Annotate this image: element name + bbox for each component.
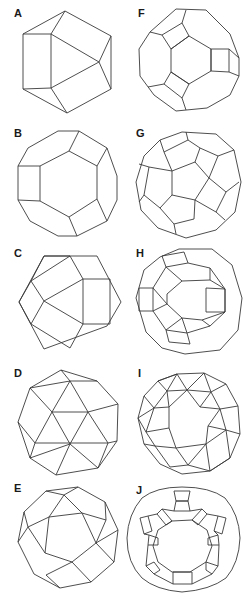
panel-j: J	[122, 480, 244, 600]
panel-e: E	[0, 480, 122, 600]
panel-b: B	[0, 120, 122, 240]
polyhedron-d-drawing	[0, 360, 122, 480]
panel-h: H	[122, 240, 244, 360]
polyhedron-e-drawing	[0, 480, 122, 600]
panel-i: I	[122, 360, 244, 480]
polyhedron-c-drawing	[0, 240, 122, 360]
panel-f: F	[122, 0, 244, 120]
panel-g: G	[122, 120, 244, 240]
polyhedron-i-drawing	[122, 360, 244, 480]
polyhedron-a-drawing	[0, 0, 122, 120]
polyhedron-g-drawing	[122, 120, 244, 240]
panel-d: D	[0, 360, 122, 480]
polyhedron-j-drawing	[122, 480, 244, 600]
panel-a: A	[0, 0, 122, 120]
polyhedron-h-drawing	[122, 240, 244, 360]
panel-c: C	[0, 240, 122, 360]
polyhedron-b-drawing	[0, 120, 122, 240]
polyhedron-f-drawing	[122, 0, 244, 120]
